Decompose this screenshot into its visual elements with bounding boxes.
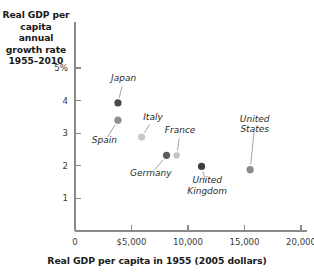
point-label-line: Spain: [92, 135, 117, 146]
point-label-line: Kingdom: [187, 186, 227, 197]
point-label-united-kingdom: UnitedKingdom: [187, 175, 227, 196]
leader-line-united-states: [251, 132, 254, 165]
data-point-united-kingdom[interactable]: [198, 163, 205, 170]
point-label-germany: Germany: [130, 168, 172, 179]
data-point-japan[interactable]: [114, 99, 121, 106]
x-tick-label-0: 0: [72, 237, 77, 247]
point-label-line: United: [187, 175, 227, 186]
y-tick-label-0: 1: [36, 193, 68, 203]
data-point-italy[interactable]: [138, 134, 145, 141]
data-point-united-states[interactable]: [247, 166, 254, 173]
data-point-france[interactable]: [174, 152, 180, 158]
leader-line-italy: [144, 125, 149, 133]
point-label-line: Germany: [130, 168, 172, 179]
leader-line-france: [177, 138, 179, 150]
x-tick-label-2: 10,000: [173, 237, 203, 247]
point-label-line: France: [165, 125, 196, 136]
point-label-line: Italy: [143, 112, 163, 123]
data-point-spain[interactable]: [114, 117, 121, 124]
point-label-japan: Japan: [111, 73, 136, 84]
x-tick-label-3: 15,000: [229, 237, 259, 247]
point-label-italy: Italy: [143, 112, 163, 123]
point-label-line: States: [240, 124, 270, 135]
x-tick-label-1: $5,000: [116, 237, 146, 247]
leader-line-japan: [119, 86, 122, 98]
y-tick-label-1: 2: [36, 161, 68, 171]
x-tick-label-4: 20,000: [286, 237, 314, 247]
y-tick-label-2: 3: [36, 128, 68, 138]
scatter-chart: Real GDP per capita annual growth rate 1…: [0, 0, 314, 274]
point-label-line: Japan: [111, 73, 136, 84]
point-label-united-states: UnitedStates: [240, 114, 270, 135]
data-point-germany[interactable]: [163, 152, 170, 159]
y-tick-label-4: 5%: [36, 63, 68, 73]
x-axis-title: Real GDP per capita in 1955 (2005 dollar…: [0, 255, 314, 266]
point-label-spain: Spain: [92, 135, 117, 146]
point-label-line: United: [240, 114, 270, 125]
y-tick-label-3: 4: [36, 96, 68, 106]
point-label-france: France: [165, 125, 196, 136]
